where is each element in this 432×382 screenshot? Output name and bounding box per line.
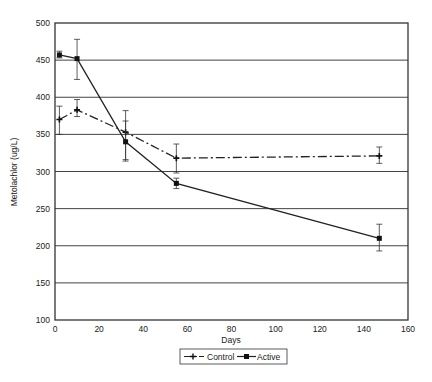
square-marker-icon [123, 139, 128, 144]
x-tick-label: 60 [183, 324, 193, 334]
legend-active-label: Active [257, 352, 280, 362]
x-tick-label: 140 [357, 324, 371, 334]
legend: Control Active [180, 349, 287, 364]
x-tick-label: 80 [227, 324, 237, 334]
x-tick-label: 40 [139, 324, 149, 334]
plus-marker-icon [74, 107, 80, 113]
y-tick-label: 250 [36, 204, 50, 214]
x-axis-title: Days [221, 335, 240, 345]
x-tick-label: 160 [401, 324, 415, 334]
gridlines [55, 60, 408, 283]
y-tick-label: 100 [36, 315, 50, 325]
series-group [56, 39, 382, 251]
y-tick-label: 500 [36, 18, 50, 28]
y-tick-label: 150 [36, 278, 50, 288]
plus-marker-icon [376, 153, 382, 159]
square-marker-icon [377, 236, 382, 241]
plus-marker-icon [56, 117, 62, 123]
series-active [56, 39, 382, 251]
y-axis-title: Metolachlor (ug/L) [9, 138, 19, 207]
square-marker-icon [174, 181, 179, 186]
x-tick-label: 100 [269, 324, 283, 334]
y-axis-ticks: 100150200250300350400450500 [36, 18, 50, 325]
x-tick-label: 20 [94, 324, 104, 334]
y-tick-label: 450 [36, 55, 50, 65]
y-tick-label: 400 [36, 92, 50, 102]
y-tick-label: 200 [36, 241, 50, 251]
series-line [59, 55, 379, 238]
square-marker-icon [57, 52, 62, 57]
x-tick-label: 120 [313, 324, 327, 334]
y-tick-label: 300 [36, 167, 50, 177]
legend-active-marker-icon [244, 354, 249, 359]
legend-control-label: Control [207, 352, 235, 362]
line-chart: 100150200250300350400450500 020406080100… [0, 0, 432, 382]
plus-marker-icon [173, 155, 179, 161]
y-tick-label: 350 [36, 129, 50, 139]
x-axis-ticks: 020406080100120140160 [53, 324, 416, 334]
x-tick-label: 0 [53, 324, 58, 334]
square-marker-icon [75, 56, 80, 61]
series-control [56, 99, 382, 173]
